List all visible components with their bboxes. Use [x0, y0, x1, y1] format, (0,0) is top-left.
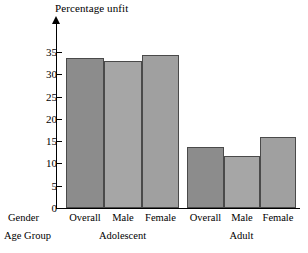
bar [187, 147, 224, 208]
x-axis-line [56, 208, 300, 209]
y-tick-label-wrap: 10 [26, 158, 57, 168]
y-tick-label-wrap: 5 [26, 181, 57, 191]
category-label: Male [104, 212, 142, 223]
chart-title: Percentage unfit [55, 2, 128, 14]
category-label: Male [224, 212, 260, 223]
y-tick-label: 25 [35, 92, 57, 102]
y-tick-label-wrap: 15 [26, 136, 57, 146]
y-tick-label: 15 [35, 136, 57, 146]
y-tick-label-wrap: 20 [26, 114, 57, 124]
bar-chart: Percentage unfit 05101520253035 OverallM… [0, 0, 308, 253]
bar [224, 156, 260, 208]
y-tick-mark [57, 119, 62, 120]
y-tick-label-wrap: 30 [26, 69, 57, 79]
category-label: Female [142, 212, 179, 223]
y-tick-label: 20 [35, 114, 57, 124]
category-label: Overall [66, 212, 104, 223]
y-tick-mark [57, 163, 62, 164]
y-tick-label: 10 [35, 158, 57, 168]
bar [142, 55, 179, 208]
bar [260, 137, 296, 208]
y-tick-label-wrap: 25 [26, 92, 57, 102]
y-tick-label: 30 [35, 69, 57, 79]
group-label: Adult [187, 230, 296, 241]
y-tick-mark [57, 74, 62, 75]
y-tick-label-wrap: 35 [26, 47, 57, 57]
y-tick-mark [57, 186, 62, 187]
y-tick-label: 5 [35, 181, 57, 191]
y-tick-mark [57, 208, 62, 209]
row-label-gender: Gender [8, 212, 39, 223]
group-label: Adolescent [66, 230, 179, 241]
y-tick-label: 35 [35, 47, 57, 57]
category-label: Overall [187, 212, 224, 223]
row-label-age-group: Age Group [4, 230, 51, 241]
y-tick-mark [57, 97, 62, 98]
category-label: Female [260, 212, 296, 223]
y-tick-mark [57, 141, 62, 142]
y-tick-mark [57, 52, 62, 53]
bar [66, 58, 104, 208]
bar [104, 61, 142, 208]
